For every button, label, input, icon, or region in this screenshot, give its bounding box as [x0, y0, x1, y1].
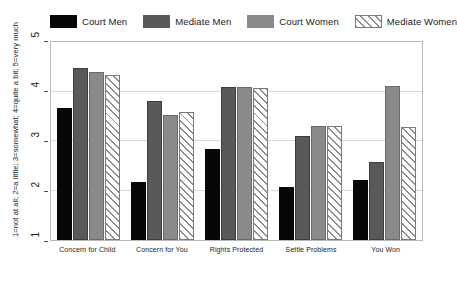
bar[interactable] [221, 87, 236, 240]
bar[interactable] [295, 136, 310, 240]
x-axis-label: Rights Protected [199, 246, 274, 260]
legend-label: Mediate Men [175, 16, 231, 27]
y-axis-ticks: 12345 [26, 30, 48, 252]
bar[interactable] [369, 162, 384, 240]
bar[interactable] [311, 126, 326, 240]
plot-area [50, 41, 423, 241]
x-axis-label: Settle Problems [274, 246, 349, 260]
legend-item-0[interactable]: Court Men [50, 15, 127, 28]
y-tick-mark [44, 241, 48, 242]
bar[interactable] [237, 87, 252, 240]
x-axis-label: Concern for Child [50, 246, 125, 260]
x-axis-label: You Won [348, 246, 423, 260]
y-axis-title: 1=not at all; 2=a little; 3=somewhat; 4=… [11, 22, 20, 237]
y-tick-label: 2 [30, 182, 41, 200]
legend-swatch-icon [143, 15, 170, 28]
bar-groups [51, 42, 422, 240]
bar-group [199, 42, 273, 240]
bar[interactable] [105, 75, 120, 240]
legend-label: Court Women [279, 16, 339, 27]
bar-group [51, 42, 125, 240]
y-tick-label: 5 [30, 32, 41, 50]
x-axis-labels: Concern for ChildConcern for YouRights P… [50, 246, 423, 260]
bar[interactable] [279, 187, 294, 240]
bar[interactable] [327, 126, 342, 240]
y-tick-mark [44, 141, 48, 142]
bar[interactable] [147, 101, 162, 240]
bar[interactable] [131, 182, 146, 240]
y-tick-label: 4 [30, 82, 41, 100]
y-tick-label: 3 [30, 132, 41, 150]
bar[interactable] [89, 72, 104, 240]
legend-item-3[interactable]: Mediate Women [355, 15, 457, 28]
bar-group [125, 42, 199, 240]
bar[interactable] [385, 86, 400, 240]
legend-swatch-icon [50, 15, 77, 28]
legend-label: Mediate Women [387, 16, 457, 27]
bar[interactable] [163, 115, 178, 240]
y-tick-mark [44, 41, 48, 42]
bar[interactable] [401, 127, 416, 240]
bar-group [348, 42, 422, 240]
legend-label: Court Men [82, 16, 127, 27]
chart-legend: Court MenMediate MenCourt WomenMediate W… [50, 12, 442, 30]
legend-item-2[interactable]: Court Women [247, 15, 339, 28]
bar[interactable] [57, 108, 72, 240]
bar[interactable] [205, 149, 220, 240]
bar-group [274, 42, 348, 240]
x-axis-label: Concern for You [125, 246, 200, 260]
y-tick-mark [44, 191, 48, 192]
bar[interactable] [73, 68, 88, 240]
bar[interactable] [353, 180, 368, 240]
y-tick-label: 1 [30, 232, 41, 250]
legend-swatch-icon [247, 15, 274, 28]
bar[interactable] [253, 88, 268, 240]
bar[interactable] [179, 112, 194, 240]
y-tick-mark [44, 91, 48, 92]
legend-item-1[interactable]: Mediate Men [143, 15, 231, 28]
legend-swatch-icon [355, 15, 382, 28]
